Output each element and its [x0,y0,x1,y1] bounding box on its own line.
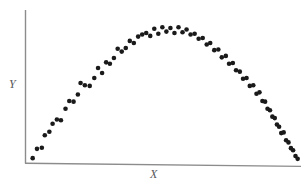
data-point [50,122,55,127]
data-point [224,54,229,59]
data-point [220,55,225,60]
data-point [257,90,262,95]
data-point [108,61,113,66]
y-axis-label: Y [9,78,16,90]
data-point [40,145,45,150]
data-point [67,99,72,104]
data-point [144,31,149,36]
x-axis-label: X [150,168,157,180]
data-point [168,26,173,31]
data-point [128,39,133,44]
data-point [251,83,256,88]
data-point [295,157,300,162]
data-point [272,116,277,121]
data-point [216,47,221,52]
data-point [281,130,286,135]
data-point [59,118,64,123]
data-point [55,117,60,122]
data-point [136,34,141,39]
data-point [92,76,97,81]
data-point [119,49,124,54]
data-point [160,25,165,30]
data-point [268,108,273,113]
data-point [76,92,81,97]
data-point [115,46,120,51]
data-point [152,26,157,31]
data-point [47,129,52,134]
data-point [83,83,88,88]
data-point [63,107,68,112]
data-point [212,48,217,53]
data-point [140,32,145,37]
data-point [87,84,92,89]
data-point [192,31,197,36]
data-point [30,156,35,161]
data-point [231,61,236,66]
data-point [164,29,169,34]
data-point [208,41,213,46]
scatter-plot-figure: Y X [0,0,308,189]
data-point [277,124,282,129]
data-points-group [30,25,300,161]
data-point [132,41,137,46]
data-point [78,81,83,86]
data-point [35,147,40,152]
data-point [238,69,243,74]
data-point [176,25,181,30]
data-point [184,27,189,32]
data-point [71,99,76,104]
data-point [112,56,117,61]
data-point [148,34,153,39]
data-point [43,133,48,138]
x-axis-line [25,163,301,166]
data-point [172,31,177,36]
data-point [123,46,128,51]
data-point [200,36,205,41]
data-point [263,99,268,104]
data-point [244,76,249,81]
data-point [100,71,105,76]
data-point [156,31,161,36]
data-point [286,140,291,145]
data-point [291,148,296,153]
data-point [188,32,193,37]
data-point [96,66,101,71]
data-point [180,30,185,35]
data-point [196,36,201,41]
plot-canvas [0,0,308,189]
